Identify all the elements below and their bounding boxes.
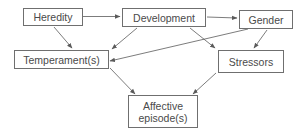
node-stressors-label: Stressors	[229, 56, 273, 68]
node-stressors: Stressors	[218, 50, 284, 73]
arrow-heredity-to-temperament	[54, 27, 72, 48]
node-affective-episodes: Affective episode(s)	[128, 95, 198, 128]
arrow-development-to-temperament	[112, 28, 137, 49]
node-heredity: Heredity	[23, 8, 83, 26]
arrow-gender-to-stressors	[254, 30, 267, 48]
node-gender-label: Gender	[248, 14, 283, 26]
diagram-canvas: Heredity Development Gender Temperament(…	[0, 0, 308, 136]
node-affective-episodes-label: Affective episode(s)	[138, 100, 187, 124]
arrow-development-to-gender	[207, 17, 237, 18]
arrow-development-to-stressors	[190, 28, 215, 48]
node-development: Development	[122, 8, 206, 27]
node-gender: Gender	[239, 10, 293, 29]
node-development-label: Development	[133, 12, 195, 24]
arrow-temperament-to-affective	[110, 68, 135, 94]
arrow-stressors-to-affective	[193, 73, 216, 94]
node-heredity-label: Heredity	[33, 11, 72, 23]
node-temperament: Temperament(s)	[14, 50, 109, 69]
node-temperament-label: Temperament(s)	[23, 54, 99, 66]
